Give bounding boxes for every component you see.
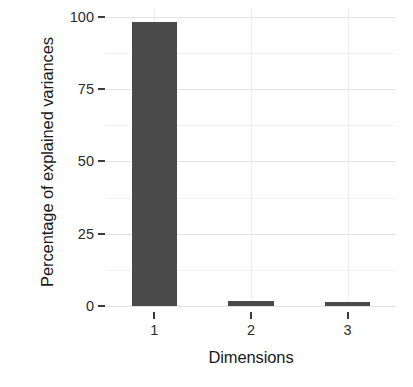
- y-axis-tick-label: 100: [50, 9, 94, 25]
- gridline-vertical: [348, 8, 349, 306]
- bar: [325, 302, 370, 306]
- x-axis-tick-label: 3: [328, 322, 368, 338]
- y-axis-tick-label: 0: [50, 298, 94, 314]
- x-axis-tick-label: 2: [231, 322, 271, 338]
- y-axis-tick-label: 75: [50, 81, 94, 97]
- bar: [228, 301, 273, 306]
- x-axis-title: Dimensions: [106, 348, 396, 367]
- y-axis-tick-mark: [98, 233, 105, 235]
- bar: [132, 22, 177, 306]
- y-axis-tick-labels: 0255075100: [50, 0, 94, 387]
- y-axis-tick-mark: [98, 88, 105, 90]
- y-axis-tick-label: 25: [50, 226, 94, 242]
- x-axis-tick-mark: [347, 312, 349, 319]
- gridline-major: [106, 306, 396, 307]
- y-axis-tick-mark: [98, 305, 105, 307]
- y-axis-tick-mark: [98, 16, 105, 18]
- x-axis-tick-mark: [153, 312, 155, 319]
- y-axis-tick-label: 50: [50, 153, 94, 169]
- x-axis-tick-label: 1: [134, 322, 174, 338]
- y-axis-tick-mark: [98, 160, 105, 162]
- plot-panel: [106, 8, 396, 306]
- gridline-vertical: [251, 8, 252, 306]
- x-axis-tick-mark: [250, 312, 252, 319]
- scree-plot-chart: Percentage of explained variances 025507…: [0, 0, 413, 387]
